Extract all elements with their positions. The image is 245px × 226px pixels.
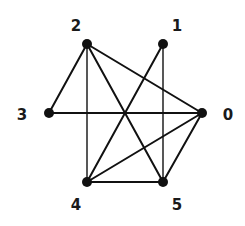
node-0 [197, 108, 207, 118]
node-label-5: 5 [172, 196, 182, 214]
graph-canvas [0, 0, 245, 226]
edge-2-3 [49, 44, 87, 113]
node-3 [44, 108, 54, 118]
node-4 [82, 177, 92, 187]
node-label-4: 4 [71, 196, 81, 214]
edge-group [49, 44, 202, 182]
node-5 [158, 177, 168, 187]
node-label-0: 0 [223, 106, 233, 124]
node-label-2: 2 [71, 17, 81, 35]
graph-diagram: 012345 [0, 0, 245, 226]
node-label-3: 3 [17, 106, 27, 124]
node-1 [158, 39, 168, 49]
node-label-1: 1 [172, 17, 182, 35]
edge-5-0 [163, 113, 202, 182]
edge-4-0 [87, 113, 202, 182]
node-2 [82, 39, 92, 49]
